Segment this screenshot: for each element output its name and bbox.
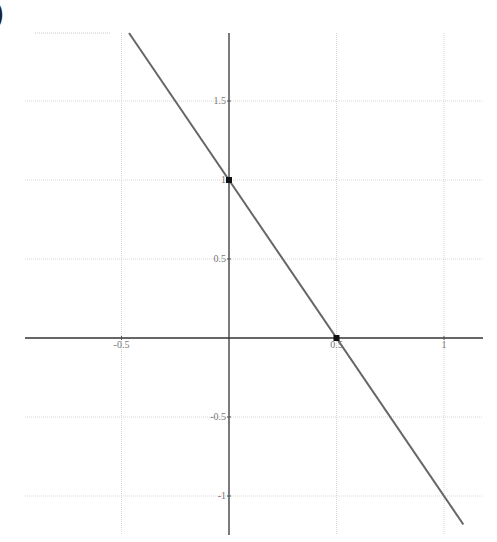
axes — [25, 33, 483, 535]
tick-labels: -0.50.511.510.5-0.5-1 — [114, 95, 447, 501]
y-tick-label: 0.5 — [214, 253, 227, 264]
data-point-marker — [334, 335, 340, 341]
y-tick-label: -0.5 — [210, 411, 226, 422]
grid-lines — [25, 33, 483, 535]
y-tick-label: 1.5 — [214, 95, 227, 106]
x-tick-label: -0.5 — [114, 339, 130, 350]
data-series — [129, 33, 463, 524]
x-tick-label: 1 — [442, 339, 447, 350]
y-tick-label: -1 — [218, 490, 226, 501]
series-line — [129, 33, 463, 524]
line-chart: -0.50.511.510.5-0.5-1 — [0, 0, 497, 542]
data-point-marker — [226, 177, 232, 183]
